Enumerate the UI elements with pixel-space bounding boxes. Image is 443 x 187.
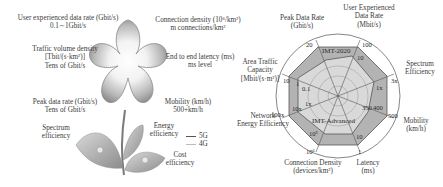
axis-latency: Latency (ms): [350, 159, 386, 176]
axis-mobility-name: Mobility: [398, 117, 434, 125]
axis-peak-name: Peak Data Rate: [280, 14, 324, 22]
axis-mobility: Mobility (km/h): [398, 117, 434, 134]
axis-spectrum-name: Spectrum: [398, 60, 442, 68]
tick-area-outer: 10: [283, 77, 290, 84]
tick-area-inner: 0.1: [302, 85, 310, 92]
tick-mobility-outer: 500: [388, 112, 398, 119]
axis-user-unit: (Mbit/s): [338, 21, 400, 29]
axis-connection-unit: (devices/km²): [280, 167, 346, 175]
axis-mobility-unit: (km/h): [398, 125, 434, 133]
axis-area-name2: Capacity: [232, 66, 288, 74]
tick-user-inner: 10: [357, 54, 364, 61]
tick-latency-outer: 1: [358, 148, 361, 155]
axis-area-traffic-capacity: Area Traffic Capacity [Mbit/(s·m²)]: [232, 58, 288, 83]
tick-connection-inner: 10⁵: [309, 130, 318, 137]
axis-user-name: User Experienced Data Rate: [338, 4, 400, 21]
axis-latency-name: Latency: [350, 159, 386, 167]
tick-spectrum-outer: 3x: [391, 77, 398, 84]
axis-connection-density: Connection Density (devices/km²): [280, 159, 346, 176]
tick-user-outer: 100: [362, 41, 372, 48]
imt2020-label: IMT-2020: [322, 48, 351, 55]
axis-spectrum-efficiency: Spectrum Efficiency: [398, 60, 442, 77]
tick-connection-outer: 10⁶: [306, 148, 315, 155]
tick-area-mid: 1: [296, 80, 299, 87]
axis-connection-name: Connection Density: [280, 159, 346, 167]
axis-user-experienced-rate: User Experienced Data Rate (Mbit/s): [338, 4, 400, 29]
axis-peak-unit: (Gbit/s): [280, 22, 324, 30]
tick-energy-inner: 1x: [305, 100, 312, 107]
tick-peak-outer: 20: [306, 41, 313, 48]
axis-area-name: Area Traffic: [232, 58, 288, 66]
tick-energy-outer: 100x: [271, 111, 284, 118]
axis-latency-unit: (ms): [350, 167, 386, 175]
tick-mobility-inner2: 400: [373, 104, 383, 111]
tick-mobility-inner: 350: [362, 104, 372, 111]
axis-area-unit: [Mbit/(s·m²)]: [232, 75, 288, 83]
axis-spectrum-name2: Efficiency: [398, 68, 442, 76]
tick-latency-inner: 10: [356, 133, 363, 140]
tick-spectrum-inner: 1x: [376, 84, 383, 91]
imt-advanced-label: IMT-Advanced: [312, 118, 355, 125]
axis-energy-name2: Energy Efficiency: [234, 120, 292, 128]
tick-energy-mid: 10x: [292, 105, 302, 112]
axis-peak-data-rate: Peak Data Rate (Gbit/s): [280, 14, 324, 31]
